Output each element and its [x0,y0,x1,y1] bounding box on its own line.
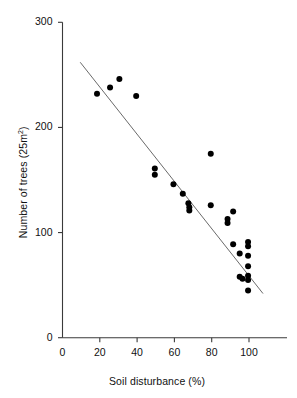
data-point [245,253,251,259]
data-point [116,76,122,82]
data-point [180,191,186,197]
data-point [245,277,251,283]
x-axis-label: Soil disturbance (%) [63,375,251,387]
scatter-plot-figure: Number of trees (25m2) Soil disturbance … [0,0,297,398]
data-point [239,276,245,282]
x-axis-tick-label: 20 [88,346,112,358]
x-axis-tick-label: 0 [51,346,75,358]
data-point [208,151,214,157]
data-point [133,93,139,99]
data-point [230,209,236,215]
trendline [80,62,263,293]
data-point [170,181,176,187]
y-axis-label-text: Number of trees (25m [17,134,29,238]
data-point [152,172,158,178]
data-point [94,91,100,97]
data-point [208,202,214,208]
data-point [245,263,251,269]
data-point [245,287,251,293]
axes [63,22,288,337]
data-point [230,241,236,247]
x-axis-tick-label: 80 [200,346,224,358]
regression-trendline [80,62,263,293]
data-points [94,76,251,293]
y-axis-ticks [58,22,63,337]
data-point [237,251,243,257]
x-axis-tick-label: 60 [162,346,186,358]
y-axis-tick-label: 200 [23,120,53,132]
x-axis-tick-label: 40 [125,346,149,358]
y-axis-tick-label: 300 [23,15,53,27]
data-point [225,220,231,226]
data-point [186,207,192,213]
data-point [107,84,113,90]
y-axis-tick-label: 0 [23,331,53,343]
data-point [152,165,158,171]
data-point [245,243,251,249]
y-axis-tick-label: 100 [23,226,53,238]
x-axis-ticks [100,338,249,343]
x-axis-tick-label: 100 [237,346,261,358]
